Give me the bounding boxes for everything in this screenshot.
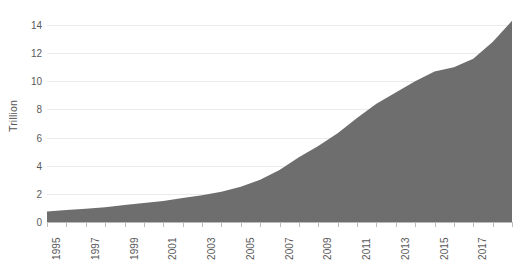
x-axis-tick-mark xyxy=(163,222,164,227)
y-axis-tick-label: 6 xyxy=(20,132,42,143)
area-path xyxy=(47,21,512,222)
x-axis-tick-mark xyxy=(280,222,281,227)
x-axis-tick-mark xyxy=(435,222,436,227)
x-axis-tick-label: 2017 xyxy=(477,237,488,260)
x-axis-tick-label: 2013 xyxy=(400,237,411,260)
x-axis-tick-label: 2011 xyxy=(361,238,372,260)
y-axis-tick-label: 4 xyxy=(20,160,42,171)
y-axis-tick-label: 8 xyxy=(20,104,42,115)
x-axis-tick-labels: 1995199719992001200320052007200920112013… xyxy=(47,228,512,272)
y-axis-tick-label: 2 xyxy=(20,188,42,199)
x-axis-tick-mark xyxy=(415,222,416,227)
x-axis-tick-mark xyxy=(202,222,203,227)
x-axis-tick-label: 2003 xyxy=(206,237,217,260)
x-axis-tick-mark xyxy=(493,222,494,227)
y-axis-title: Trillion xyxy=(6,0,20,232)
x-axis-tick-label: 2009 xyxy=(322,237,333,260)
area-chart: Trillion 02468101214 1995199719992001200… xyxy=(0,0,514,272)
x-axis-tick-label: 2001 xyxy=(167,237,178,260)
x-axis-tick-label: 2005 xyxy=(245,237,256,260)
x-axis-tick-label: 2007 xyxy=(284,237,295,260)
x-axis-tick-mark xyxy=(357,222,358,227)
x-axis-tick-mark xyxy=(299,222,300,227)
y-axis-tick-label: 14 xyxy=(20,20,42,31)
x-axis-tick-mark xyxy=(86,222,87,227)
x-axis-tick-mark xyxy=(454,222,455,227)
x-axis-tick-mark xyxy=(125,222,126,227)
x-axis-tick-mark xyxy=(318,222,319,227)
x-axis-tick-mark xyxy=(105,222,106,227)
plot-area xyxy=(47,18,512,222)
y-axis-tick-label: 0 xyxy=(20,217,42,228)
x-axis-tick-label: 1995 xyxy=(51,237,62,260)
y-axis-tick-label: 12 xyxy=(20,48,42,59)
x-axis-tick-label: 1997 xyxy=(90,237,101,260)
area-series xyxy=(47,18,512,222)
x-axis-tick-mark xyxy=(183,222,184,227)
x-axis-tick-mark xyxy=(338,222,339,227)
x-axis-tick-mark xyxy=(396,222,397,227)
x-axis-tick-mark xyxy=(221,222,222,227)
x-axis-tick-mark xyxy=(473,222,474,227)
x-axis-tick-label: 1999 xyxy=(129,237,140,260)
x-axis-tick-mark xyxy=(66,222,67,227)
x-axis-tick-mark xyxy=(260,222,261,227)
x-axis-tick-mark xyxy=(144,222,145,227)
x-axis-tick-label: 2015 xyxy=(439,237,450,260)
x-axis-tick-mark xyxy=(47,222,48,227)
x-axis-tick-mark xyxy=(376,222,377,227)
x-axis-tick-mark xyxy=(241,222,242,227)
y-axis-tick-labels: 02468101214 xyxy=(20,0,42,272)
x-axis-tick-mark xyxy=(512,222,513,227)
y-axis-tick-label: 10 xyxy=(20,76,42,87)
